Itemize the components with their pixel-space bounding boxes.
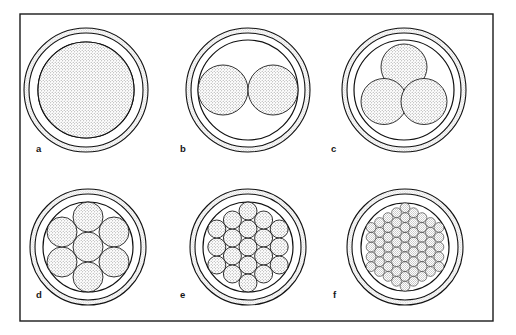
panel-f-strand [383,262,393,272]
panel-f-strand [392,218,402,228]
panel-f-strand [375,257,385,267]
panel-e-strand [223,265,241,283]
panel-f-strand [383,252,393,262]
panel-f-strand [426,218,436,228]
panel-f-strand [400,203,410,213]
panel-f-strand [426,257,436,267]
panel-c [342,28,466,152]
panel-d-strand [73,232,103,262]
panel-f-strand [400,252,410,262]
panel-a-strand [38,42,134,138]
panel-label-c: c [331,143,336,154]
panel-f-strand [400,281,410,291]
panel-e-strand [255,247,273,265]
figure-root: abcdef [0,0,516,335]
panel-f-strand [392,208,402,218]
panel-f-strand [426,247,436,257]
panel-e-strand [270,256,288,274]
panel-f-strand [392,227,402,237]
panel-f-strand [383,232,393,242]
panel-a [24,28,148,152]
panel-e [190,189,306,305]
panel-d-strand [99,247,129,277]
panel-f-strand [409,237,419,247]
panel-d-strand [47,217,77,247]
panel-f-strand [366,223,376,233]
panel-f-strand [400,272,410,282]
panel-e-strand [208,256,226,274]
panel-f [347,189,463,305]
panel-b-strand [198,65,248,115]
panel-e-strand [239,220,257,238]
panel-f-strand [392,237,402,247]
panel-f-strand [417,213,427,223]
panel-label-e: e [180,289,185,300]
panel-e-strand [208,238,226,256]
panel-f-strand [426,227,436,237]
panel-e-strand [255,229,273,247]
panel-e-strand [255,265,273,283]
panel-f-strand [417,232,427,242]
panel-f-strand [409,218,419,228]
panel-f-strand [392,267,402,277]
panel-b-strand [248,65,298,115]
panel-label-a: a [36,143,42,154]
panel-f-strand [434,223,444,233]
panel-f-strand [426,267,436,277]
panel-b [186,28,310,152]
panel-f-strand [375,267,385,277]
panel-f-strand [409,208,419,218]
panel-f-strand [409,267,419,277]
panel-f-strand [375,247,385,257]
panel-f-strand [400,232,410,242]
panel-f-strand [392,247,402,257]
panel-c-strand [361,79,407,125]
panel-f-strand [383,242,393,252]
panel-f-strand [434,242,444,252]
panel-e-strand [239,274,257,292]
panel-f-strand [383,223,393,233]
panel-e-strand [239,238,257,256]
panel-label-b: b [180,143,186,154]
panel-f-strand [434,262,444,272]
panel-f-strand [400,213,410,223]
panel-f-strand [383,272,393,282]
panel-d-strand [73,202,103,232]
panel-e-strand [223,247,241,265]
panel-f-strand [366,262,376,272]
panel-e-strand [270,220,288,238]
panel-f-strand [400,242,410,252]
panel-e-strand [208,220,226,238]
panel-f-strand [366,232,376,242]
panel-f-strand [392,257,402,267]
panel-f-strand [426,237,436,247]
panel-f-strand [409,257,419,267]
panel-f-strand [409,227,419,237]
panel-d-strand [73,262,103,292]
panel-e-strand [255,211,273,229]
panel-e-strand [223,229,241,247]
panel-f-strand [409,247,419,257]
panel-f-strand [417,242,427,252]
panel-d-strand [99,217,129,247]
panel-d-strand [47,247,77,277]
panel-e-strand [223,211,241,229]
panel-f-strand [417,262,427,272]
panel-c-strand [401,79,447,125]
panel-f-strand [417,223,427,233]
panel-e-strand [270,238,288,256]
panel-e-strand [239,256,257,274]
panel-f-strand [375,237,385,247]
panel-f-strand [434,232,444,242]
panel-f-strand [366,242,376,252]
panel-e-strand [239,202,257,220]
panel-f-strand [375,227,385,237]
panel-d [30,189,146,305]
panel-f-strand [400,262,410,272]
panel-f-strand [434,252,444,262]
panel-label-d: d [36,289,42,300]
panel-f-strand [366,252,376,262]
panel-f-strand [392,276,402,286]
cable-cross-section-figure: abcdef [0,0,516,335]
panel-f-strand [409,276,419,286]
